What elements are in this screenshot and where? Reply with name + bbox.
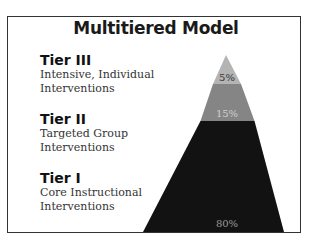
tier-3-percent: 5% — [219, 72, 235, 83]
pyramid-graphic: 5% 15% 80% — [0, 0, 312, 244]
tier-1-band — [143, 121, 284, 232]
tier-2-percent: 15% — [216, 108, 238, 119]
tier-1-percent: 80% — [216, 218, 238, 229]
